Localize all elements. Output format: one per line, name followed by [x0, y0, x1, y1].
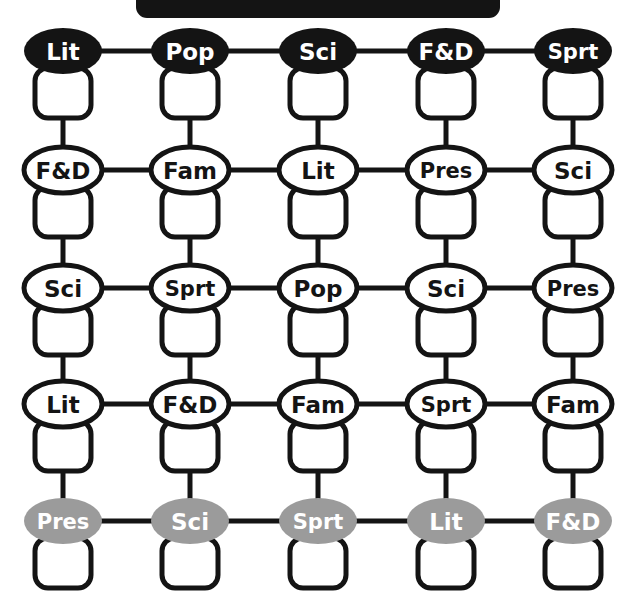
grid-node[interactable]: Pop	[279, 265, 357, 311]
node-checkbox[interactable]	[418, 538, 474, 588]
grid-node[interactable]: F&D	[24, 147, 102, 193]
node-ellipse	[279, 381, 357, 427]
node-ellipse	[279, 28, 357, 74]
node-ellipse	[279, 265, 357, 311]
header-bar-layer	[136, 0, 500, 18]
grid-node[interactable]: Fam	[151, 147, 229, 193]
node-ellipse	[151, 381, 229, 427]
checkbox-outline	[290, 538, 346, 588]
grid-node[interactable]: F&D	[151, 381, 229, 427]
grid-node[interactable]: Lit	[24, 381, 102, 427]
node-ellipse	[279, 498, 357, 544]
node-checkbox[interactable]	[35, 538, 91, 588]
node-ellipse	[24, 147, 102, 193]
node-ellipse	[279, 147, 357, 193]
checkbox-outline	[545, 68, 601, 118]
grid-node[interactable]: Pres	[407, 147, 485, 193]
grid-node[interactable]: Sci	[24, 265, 102, 311]
node-ellipse	[151, 498, 229, 544]
checkbox-outline	[545, 538, 601, 588]
node-checkbox[interactable]	[290, 68, 346, 118]
grid-node[interactable]: Sprt	[279, 498, 357, 544]
node-ellipse	[407, 265, 485, 311]
grid-node[interactable]: F&D	[407, 28, 485, 74]
node-ellipse	[151, 265, 229, 311]
grid-node[interactable]: Fam	[534, 381, 612, 427]
grid-node[interactable]: Sci	[151, 498, 229, 544]
node-ellipse	[151, 28, 229, 74]
node-checkbox[interactable]	[418, 68, 474, 118]
node-ellipse	[534, 265, 612, 311]
grid-network-diagram: LitPopSciF&DSprtF&DFamLitPresSciSciSprtP…	[0, 0, 636, 605]
node-checkbox[interactable]	[290, 538, 346, 588]
node-checkbox[interactable]	[162, 538, 218, 588]
grid-node[interactable]: Pres	[24, 498, 102, 544]
checkbox-outline	[290, 68, 346, 118]
grid-node[interactable]: Sprt	[534, 28, 612, 74]
node-ellipse	[407, 147, 485, 193]
checkbox-outline	[418, 538, 474, 588]
node-checkbox[interactable]	[162, 68, 218, 118]
grid-node[interactable]: Sci	[407, 265, 485, 311]
node-ellipse	[407, 381, 485, 427]
diagram-canvas: LitPopSciF&DSprtF&DFamLitPresSciSciSprtP…	[0, 0, 636, 605]
grid-node[interactable]: Lit	[407, 498, 485, 544]
node-ellipse	[407, 28, 485, 74]
node-checkbox[interactable]	[35, 68, 91, 118]
node-checkbox[interactable]	[545, 538, 601, 588]
grid-node[interactable]: Lit	[279, 147, 357, 193]
grid-node[interactable]: F&D	[534, 498, 612, 544]
checkbox-outline	[35, 538, 91, 588]
node-ellipse	[151, 147, 229, 193]
checkbox-outline	[35, 68, 91, 118]
node-ellipse	[534, 28, 612, 74]
node-ellipse	[534, 498, 612, 544]
node-ellipse	[24, 265, 102, 311]
node-ellipse	[534, 381, 612, 427]
checkbox-outline	[418, 68, 474, 118]
checkbox-outline	[162, 68, 218, 118]
node-ellipse	[407, 498, 485, 544]
checkbox-outline	[162, 538, 218, 588]
node-ellipse	[24, 381, 102, 427]
grid-node[interactable]: Sci	[279, 28, 357, 74]
grid-node[interactable]: Sprt	[151, 265, 229, 311]
grid-node[interactable]: Fam	[279, 381, 357, 427]
node-ellipse	[24, 28, 102, 74]
node-ellipse	[24, 498, 102, 544]
grid-node[interactable]: Lit	[24, 28, 102, 74]
grid-node[interactable]: Pres	[534, 265, 612, 311]
header-bar	[136, 0, 500, 18]
grid-node[interactable]: Sprt	[407, 381, 485, 427]
grid-node[interactable]: Sci	[534, 147, 612, 193]
grid-node[interactable]: Pop	[151, 28, 229, 74]
node-checkbox[interactable]	[545, 68, 601, 118]
node-ellipse	[534, 147, 612, 193]
